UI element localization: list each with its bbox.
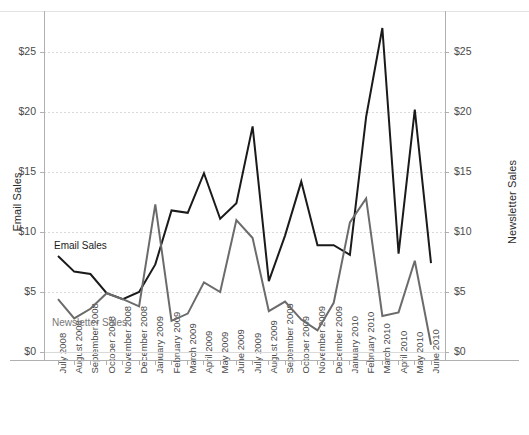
series-label-email: Email Sales bbox=[54, 240, 107, 251]
gridlines bbox=[44, 52, 445, 352]
plot-area bbox=[0, 0, 529, 435]
line-chart: Email Sales Newsletter Sales $0$0$5$5$10… bbox=[0, 0, 529, 435]
data-series bbox=[58, 28, 431, 345]
series-label-newsletter: Newsletter Sales bbox=[52, 317, 127, 328]
axis-lines bbox=[0, 11, 529, 360]
